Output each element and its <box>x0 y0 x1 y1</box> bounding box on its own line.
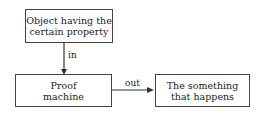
result-node-line-1: The something <box>167 80 239 91</box>
proof-machine-node: Proof machine <box>15 74 112 107</box>
object-node-line-2: certain property <box>26 26 112 37</box>
in-edge-label: in <box>68 50 77 60</box>
object-node-line-1: Object having the <box>26 15 112 26</box>
proof-machine-line-1: Proof <box>43 80 84 91</box>
out-arrow-head-icon <box>147 87 154 93</box>
object-node: Object having the certain property <box>25 9 113 43</box>
result-node-line-2: that happens <box>167 91 239 102</box>
out-edge-label: out <box>125 78 140 88</box>
result-node: The something that happens <box>155 74 250 107</box>
proof-machine-line-2: machine <box>43 91 84 102</box>
